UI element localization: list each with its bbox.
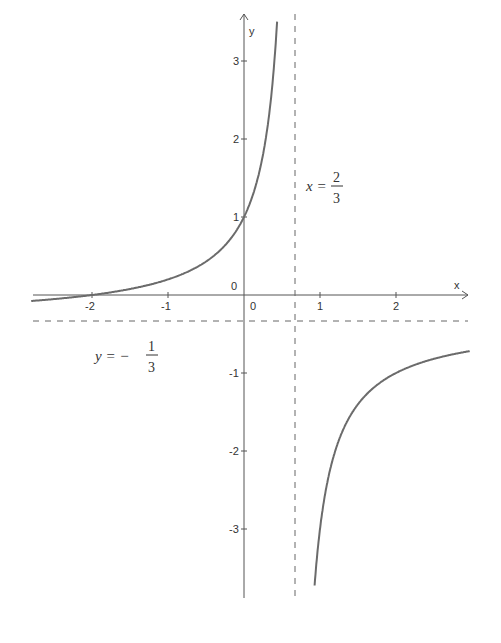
svg-text:x =: x = [305,178,327,194]
x-axis-label: x [454,279,460,291]
y-tick-label: 2 [233,133,239,145]
curve-right-branch [315,351,470,585]
y-tick-label: -2 [229,445,239,457]
origin-label-y: 0 [231,280,237,292]
x-tick-label: -2 [85,300,95,312]
svg-text:3: 3 [148,360,155,375]
svg-text:y = −: y = − [93,348,129,364]
svg-text:2: 2 [333,170,340,185]
curve-left-branch [31,22,277,301]
function-plot: -2-112321-1-2-3 x y 0 0 x = 2 3 y = − 1 … [0,0,501,643]
y-axis-label: y [249,25,255,37]
horizontal-asymptote-label: y = − 1 3 [93,339,158,375]
y-tick-label: -3 [229,523,239,535]
x-tick-label: 2 [393,300,399,312]
vertical-asymptote-label: x = 2 3 [305,170,343,206]
origin-label-x: 0 [250,300,256,312]
svg-text:1: 1 [148,339,155,354]
svg-text:3: 3 [333,191,340,206]
y-tick-label: 1 [233,211,239,223]
y-tick-label: 3 [233,55,239,67]
x-tick-label: 1 [317,300,323,312]
y-tick-label: -1 [229,367,239,379]
x-tick-label: -1 [161,300,171,312]
